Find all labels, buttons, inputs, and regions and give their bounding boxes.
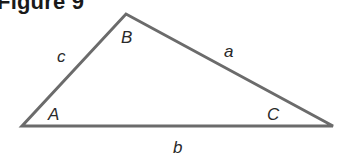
triangle-shape: [22, 14, 333, 126]
side-label-b: b: [173, 138, 182, 157]
vertex-label-c: C: [267, 105, 280, 124]
side-label-a: a: [224, 42, 233, 61]
triangle-diagram: A B C c a b: [0, 0, 341, 162]
side-label-c: c: [57, 47, 66, 66]
vertex-label-b: B: [121, 28, 132, 47]
vertex-label-a: A: [47, 105, 59, 124]
